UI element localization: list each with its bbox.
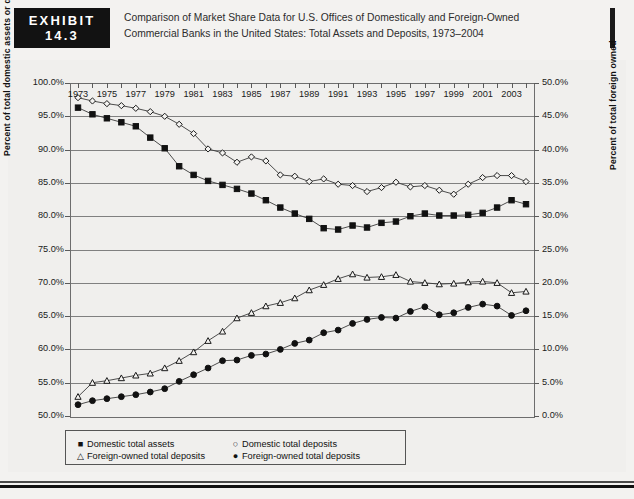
data-point [220, 358, 226, 364]
data-series-layer [71, 83, 533, 416]
x-axis-tick [280, 83, 281, 88]
data-point [205, 178, 210, 183]
y-axis-left-tick-label: 75.0% [12, 244, 64, 254]
y-axis-left-tick [65, 349, 70, 350]
series-line [78, 98, 526, 195]
data-point [523, 308, 529, 314]
data-point [249, 191, 254, 196]
data-point [90, 398, 96, 404]
legend-label-2: Foreign-owned total deposits [87, 451, 205, 461]
y-axis-left-tick [65, 83, 70, 84]
data-point [162, 146, 167, 151]
data-point [335, 327, 341, 333]
x-axis-tick [324, 83, 325, 88]
data-point [248, 154, 254, 160]
data-point [292, 341, 298, 347]
data-point [422, 211, 427, 216]
data-point [321, 282, 327, 288]
y-axis-right-tick-label: 5.0% [542, 377, 594, 387]
data-point [148, 135, 153, 140]
data-point [494, 205, 499, 210]
data-point [292, 211, 297, 216]
x-axis-tick [410, 83, 411, 88]
x-axis-tick [309, 83, 310, 88]
data-point [176, 378, 182, 384]
data-point [335, 227, 340, 232]
y-axis-right-tick [534, 416, 539, 417]
y-axis-left-tick-label: 50.0% [12, 410, 64, 420]
data-point [263, 198, 268, 203]
y-axis-left-tick-label: 90.0% [12, 144, 64, 154]
data-point [191, 172, 196, 177]
data-point [523, 178, 529, 184]
data-point [176, 358, 182, 364]
y-axis-right-tick [534, 316, 539, 317]
data-point [75, 105, 80, 110]
x-axis-tick [512, 83, 513, 88]
data-point [278, 205, 283, 210]
y-axis-left-tick-label: 80.0% [12, 210, 64, 220]
y-axis-left-tick-label: 60.0% [12, 343, 64, 353]
x-axis-tick [439, 83, 440, 88]
data-point [176, 164, 181, 169]
exhibit-label: EXHIBIT [29, 14, 96, 28]
data-point [205, 338, 211, 344]
data-point [436, 312, 442, 318]
data-point [133, 124, 138, 129]
data-point [306, 178, 312, 184]
legend-symbol-open-triangle-icon: △ [74, 450, 87, 461]
data-point [480, 174, 486, 180]
x-axis-tick [179, 83, 180, 88]
data-point [451, 191, 457, 197]
data-point [451, 213, 456, 218]
plot-area: 1973197519771979198119831985198719891991… [70, 83, 535, 418]
exhibit-title: Comparison of Market Share Data for U.S.… [124, 10, 594, 41]
y-axis-right-title: Percent of total foreign owned [608, 40, 618, 170]
data-point [104, 116, 109, 121]
y-axis-left-tick [65, 416, 70, 417]
data-point [118, 394, 124, 400]
legend-symbol-filled-square-icon: ■ [74, 439, 87, 449]
legend-label-0: Domestic total assets [87, 439, 174, 449]
data-point [147, 389, 153, 395]
data-point [393, 272, 399, 278]
exhibit-number: 14.3 [45, 28, 79, 43]
y-axis-left-tick-label: 55.0% [12, 377, 64, 387]
x-axis-tick [194, 83, 195, 88]
y-axis-left-tick [65, 216, 70, 217]
exhibit-badge: EXHIBIT 14.3 [14, 8, 110, 48]
y-axis-left-tick-label: 70.0% [12, 277, 64, 287]
x-axis-tick [396, 83, 397, 88]
data-point [191, 372, 197, 378]
series-2 [75, 271, 529, 399]
y-axis-left-tick [65, 283, 70, 284]
x-axis-tick [121, 83, 122, 88]
series-0 [75, 105, 528, 232]
data-point [494, 303, 500, 309]
x-axis-tick [295, 83, 296, 88]
data-point [349, 182, 355, 188]
y-axis-right-tick [534, 283, 539, 284]
data-point [118, 103, 124, 109]
data-point [205, 365, 211, 371]
data-point [277, 347, 283, 353]
data-point [248, 310, 254, 316]
data-point [119, 120, 124, 125]
data-point [104, 396, 110, 402]
exhibit-page: EXHIBIT 14.3 Comparison of Market Share … [0, 0, 634, 499]
y-axis-left-tick-label: 85.0% [12, 177, 64, 187]
y-axis-right-tick-label: 10.0% [542, 343, 594, 353]
data-point [90, 112, 95, 117]
x-axis-tick [425, 83, 426, 88]
exhibit-header: EXHIBIT 14.3 Comparison of Market Share … [0, 0, 634, 58]
y-axis-right-tick [534, 216, 539, 217]
data-point [422, 304, 428, 310]
data-point [393, 315, 399, 321]
exhibit-title-line-1: Comparison of Market Share Data for U.S.… [124, 10, 594, 26]
data-point [465, 212, 470, 217]
chart-container: Percent of total domestic assets or depo… [8, 60, 626, 472]
data-point [436, 187, 442, 193]
x-axis-tick [353, 83, 354, 88]
data-point [465, 181, 471, 187]
legend-symbol-filled-circle-icon: ● [229, 451, 242, 461]
